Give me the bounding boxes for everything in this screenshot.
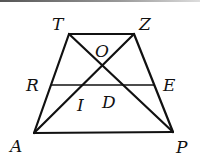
- trapezoid-diagram: T Z O R E I D A P: [0, 0, 200, 163]
- segment-TA: [34, 34, 69, 133]
- label-D: D: [101, 92, 116, 112]
- label-O: O: [95, 41, 109, 61]
- label-Z: Z: [138, 14, 152, 34]
- segment-AP: [34, 132, 173, 133]
- label-R: R: [25, 75, 39, 95]
- label-E: E: [162, 75, 176, 95]
- label-P: P: [175, 137, 188, 157]
- label-A: A: [8, 136, 22, 156]
- label-T: T: [52, 14, 65, 34]
- label-I: I: [76, 95, 84, 115]
